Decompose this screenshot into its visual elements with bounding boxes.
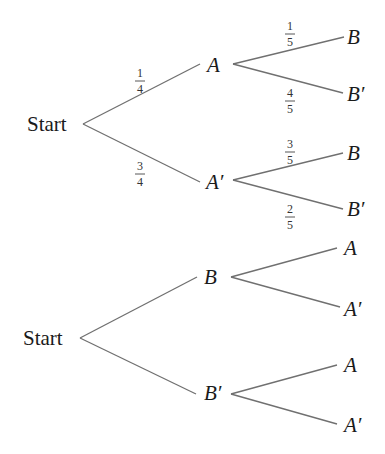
tree2-edge-start-b xyxy=(80,277,197,338)
tree2-edge-b-prime-a xyxy=(231,365,337,394)
fraction-denominator: 4 xyxy=(137,82,143,96)
tree1-edge-start-a-prime xyxy=(83,124,200,182)
fraction-denominator: 5 xyxy=(287,35,293,49)
tree1-prob-a: 1 4 xyxy=(135,66,145,96)
tree1-node-a-prime: A′ xyxy=(204,170,224,194)
tree1-leaf-a-prime-b-prime: B′ xyxy=(347,197,365,221)
tree2-leaf-b-a: A xyxy=(342,236,357,260)
tree1-leaf-a-prime-b: B xyxy=(347,141,360,165)
fraction-denominator: 5 xyxy=(287,153,293,167)
fraction-numerator: 2 xyxy=(287,202,293,216)
tree2-leaf-b-prime-a-prime: A′ xyxy=(342,413,362,437)
tree2-node-b: B xyxy=(204,265,217,289)
fraction-denominator: 5 xyxy=(287,102,293,116)
tree1-prob-a-b: 1 5 xyxy=(285,19,295,49)
fraction-numerator: 3 xyxy=(287,137,293,151)
fraction-numerator: 1 xyxy=(137,66,143,80)
fraction-denominator: 4 xyxy=(137,175,143,189)
fraction-denominator: 5 xyxy=(287,218,293,232)
fraction-numerator: 3 xyxy=(137,159,143,173)
tree2-leaf-b-a-prime: A′ xyxy=(342,297,362,321)
fraction-numerator: 4 xyxy=(287,86,293,100)
tree-1: Start 1 4 3 4 A A′ 1 5 4 5 3 xyxy=(27,19,365,232)
tree1-prob-a-prime: 3 4 xyxy=(135,159,145,189)
tree1-node-a: A xyxy=(205,53,220,77)
tree-2: Start B B′ A A′ A A′ xyxy=(23,236,362,437)
tree1-start-label: Start xyxy=(27,112,67,136)
probability-tree-diagram: Start 1 4 3 4 A A′ 1 5 4 5 3 xyxy=(0,0,385,454)
tree1-prob-a-prime-b-prime: 2 5 xyxy=(285,202,295,232)
tree2-edge-b-prime-a-prime xyxy=(231,394,337,424)
tree2-leaf-b-prime-a: A xyxy=(342,353,357,377)
tree2-node-b-prime: B′ xyxy=(204,381,222,405)
tree2-edge-b-a xyxy=(231,248,337,277)
tree2-edge-start-b-prime xyxy=(80,338,196,394)
tree1-prob-a-prime-b: 3 5 xyxy=(285,137,295,167)
tree2-edge-b-a-prime xyxy=(231,277,340,307)
tree1-leaf-a-b: B xyxy=(347,25,360,49)
tree1-leaf-a-b-prime: B′ xyxy=(347,82,365,106)
tree1-prob-a-b-prime: 4 5 xyxy=(285,86,295,116)
fraction-numerator: 1 xyxy=(287,19,293,33)
tree2-start-label: Start xyxy=(23,326,63,350)
